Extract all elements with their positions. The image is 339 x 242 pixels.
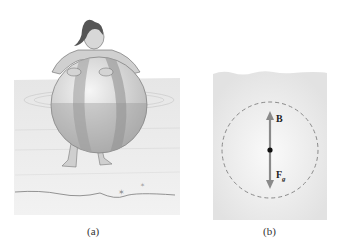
free-body-diagram (213, 70, 327, 220)
svg-text:✶: ✶ (140, 182, 145, 188)
panel-a-beach-ball-illustration: ✶ ✶ (0, 0, 200, 242)
buoyant-force-label: B (276, 113, 283, 124)
beach-ball-illustration: ✶ ✶ (0, 0, 200, 242)
svg-text:✶: ✶ (118, 188, 125, 197)
caption-b: (b) (263, 225, 276, 237)
caption-a: (a) (87, 225, 99, 237)
center-of-mass-dot (267, 147, 272, 152)
gravity-force-label: Fg (276, 169, 286, 183)
panel-b-free-body-diagram (213, 70, 327, 220)
